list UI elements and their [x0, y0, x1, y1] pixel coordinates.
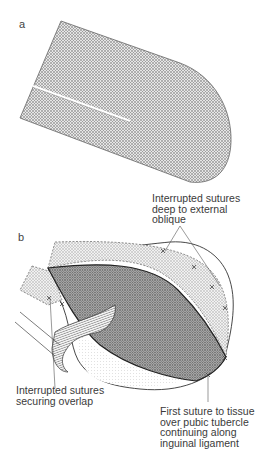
panel-b-label: b [18, 231, 24, 243]
callout-interrupted-sutures-deep: Interrupted sutures deep to external obl… [152, 193, 240, 225]
callout-interrupted-sutures-overlap: Interrupted sutures securing overlap [16, 385, 104, 406]
panel-b-repair [15, 226, 233, 402]
callout-first-suture: First suture to tissue over pubic tuberc… [160, 406, 255, 448]
panel-a-label: a [19, 18, 25, 30]
panel-a-mesh [20, 21, 231, 182]
